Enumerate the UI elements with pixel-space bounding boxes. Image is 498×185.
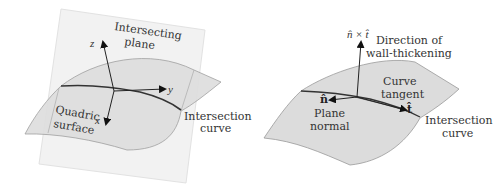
right-figure: n̂ × t̂ Direction of wall-thickening Cur…	[264, 28, 493, 165]
curve-label-right-line1: Intersection	[425, 114, 493, 127]
normal-label-line2: normal	[310, 120, 350, 133]
direction-label-line2: wall-thickening	[366, 47, 452, 60]
tangent-label-line1: Curve	[383, 75, 416, 88]
y-axis-label: y	[167, 83, 173, 95]
quadric-surface-right	[264, 60, 459, 165]
tangent-vector-symbol: t̂	[407, 102, 413, 116]
z-axis-label: z	[89, 37, 95, 49]
diagram-canvas: z y x Intersecting plane Quadric surface…	[0, 0, 498, 185]
curve-label-line2: curve	[200, 122, 231, 135]
tangent-label-line2: tangent	[381, 88, 425, 101]
curve-label-right-line2: curve	[442, 127, 473, 140]
left-figure: z y x Intersecting plane Quadric surface…	[25, 9, 252, 183]
direction-label-line1: Direction of	[376, 34, 443, 47]
cross-product-label: n̂ × t̂	[347, 28, 370, 40]
normal-label-line1: Plane	[314, 107, 345, 120]
normal-vector-symbol: n̂	[320, 93, 328, 106]
